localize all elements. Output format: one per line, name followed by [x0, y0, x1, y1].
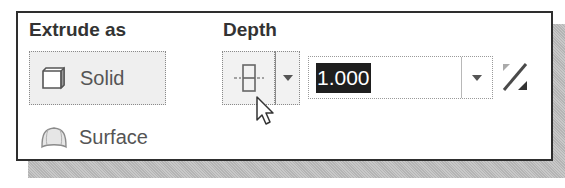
- depth-value-input[interactable]: 1.000: [308, 56, 493, 99]
- flip-direction-icon: [499, 60, 531, 94]
- extrude-options-panel: Extrude as Depth Solid Surface 1.000: [16, 11, 553, 161]
- depth-title: Depth: [223, 19, 277, 41]
- solid-button[interactable]: Solid: [29, 51, 166, 105]
- chevron-down-icon: [283, 75, 293, 81]
- surface-button[interactable]: Surface: [29, 120, 166, 154]
- solid-label: Solid: [80, 67, 124, 90]
- extrude-as-title: Extrude as: [29, 19, 126, 41]
- chevron-down-icon: [472, 75, 482, 81]
- solid-cube-icon: [41, 66, 67, 90]
- depth-value-dropdown[interactable]: [461, 57, 492, 98]
- depth-value[interactable]: 1.000: [316, 63, 371, 93]
- depth-type-dropdown[interactable]: [275, 51, 300, 105]
- flip-direction-button[interactable]: [497, 55, 533, 99]
- depth-type-button[interactable]: [222, 51, 275, 105]
- surface-icon: [39, 125, 69, 149]
- symmetric-depth-icon: [232, 61, 266, 95]
- surface-label: Surface: [79, 126, 148, 149]
